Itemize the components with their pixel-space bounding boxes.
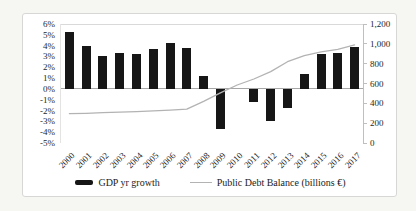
legend: GDP yr growth Public Debt Balance (billi… <box>23 177 398 188</box>
legend-label-debt: Public Debt Balance (billions €) <box>217 177 346 188</box>
left-axis-tick: -3% <box>25 116 55 126</box>
left-axis-tick: 0% <box>25 84 55 94</box>
left-axis-tick: -1% <box>25 95 55 105</box>
left-axis-tick: 3% <box>25 51 55 61</box>
left-axis-tick: 1% <box>25 73 55 83</box>
right-axis-tick-mark <box>363 24 367 25</box>
left-axis-tick: 4% <box>25 41 55 51</box>
right-axis-tick: 800 <box>370 59 384 69</box>
legend-label-gdp: GDP yr growth <box>98 177 159 188</box>
bar-swatch-icon <box>75 180 93 185</box>
right-axis-tick-mark <box>363 103 367 104</box>
right-axis-tick: 200 <box>370 118 384 128</box>
right-axis-tick-mark <box>363 83 367 84</box>
left-axis-tick: 5% <box>25 30 55 40</box>
line-swatch-icon <box>190 182 212 183</box>
public-debt-line <box>61 24 363 143</box>
left-axis-tick: 2% <box>25 62 55 72</box>
right-axis-tick: 0 <box>370 138 375 148</box>
right-axis-tick: 1,200 <box>370 19 390 29</box>
right-axis-tick-mark <box>363 143 367 144</box>
right-axis-tick: 1,000 <box>370 39 390 49</box>
right-axis-tick-mark <box>363 43 367 44</box>
right-axis-tick-mark <box>363 63 367 64</box>
left-axis-tick: 6% <box>25 19 55 29</box>
left-axis-tick: -5% <box>25 138 55 148</box>
legend-item-gdp: GDP yr growth <box>75 177 159 188</box>
right-axis-tick: 400 <box>370 98 384 108</box>
left-axis-tick: -4% <box>25 127 55 137</box>
chart-area: 6%5%4%3%2%1%0%-1%-2%-3%-4%-5% 1,2001,000… <box>22 13 397 197</box>
legend-item-debt: Public Debt Balance (billions €) <box>190 177 346 188</box>
right-axis-tick: 600 <box>370 79 384 89</box>
plot-area <box>61 24 363 143</box>
right-axis-tick-mark <box>363 123 367 124</box>
left-axis-tick: -2% <box>25 106 55 116</box>
